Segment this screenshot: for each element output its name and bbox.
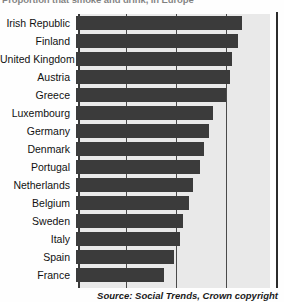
bar-germany bbox=[76, 124, 209, 138]
bar-united-kingdom bbox=[76, 52, 232, 66]
bar-track bbox=[74, 158, 264, 176]
table-row: United Kingdom bbox=[0, 50, 284, 68]
bar-italy bbox=[76, 232, 180, 246]
bar-track bbox=[74, 32, 264, 50]
table-row: Italy bbox=[0, 230, 284, 248]
table-row: Sweden bbox=[0, 212, 284, 230]
bar-track bbox=[74, 248, 264, 266]
source-note: Source: Social Trends, Crown copyright bbox=[0, 290, 278, 301]
category-label-portugal: Portugal bbox=[0, 158, 74, 176]
category-label-irish-republic: Irish Republic bbox=[0, 14, 74, 32]
table-row: Finland bbox=[0, 32, 284, 50]
bar-track bbox=[74, 176, 264, 194]
bar-sweden bbox=[76, 214, 183, 228]
category-label-luxembourg: Luxembourg bbox=[0, 104, 74, 122]
bar-france bbox=[76, 268, 164, 282]
bar-track bbox=[74, 140, 264, 158]
category-label-france: France bbox=[0, 266, 74, 284]
table-row: Denmark bbox=[0, 140, 284, 158]
category-label-spain: Spain bbox=[0, 248, 74, 266]
bar-austria bbox=[76, 70, 230, 84]
category-label-greece: Greece bbox=[0, 86, 74, 104]
bar-finland bbox=[76, 34, 238, 48]
table-row: Belgium bbox=[0, 194, 284, 212]
bar-luxembourg bbox=[76, 106, 213, 120]
bar-track bbox=[74, 194, 264, 212]
bar-irish-republic bbox=[76, 16, 242, 30]
table-row: Austria bbox=[0, 68, 284, 86]
bar-track bbox=[74, 212, 264, 230]
bar-netherlands bbox=[76, 178, 193, 192]
category-label-sweden: Sweden bbox=[0, 212, 74, 230]
bar-belgium bbox=[76, 196, 189, 210]
category-label-italy: Italy bbox=[0, 230, 74, 248]
bar-track bbox=[74, 68, 264, 86]
category-label-united-kingdom: United Kingdom bbox=[0, 50, 74, 68]
table-row: Greece bbox=[0, 86, 284, 104]
bar-track bbox=[74, 14, 264, 32]
bar-track bbox=[74, 230, 264, 248]
bar-track bbox=[74, 122, 264, 140]
table-row: Luxembourg bbox=[0, 104, 284, 122]
bar-rows: Irish Republic Finland United Kingdom Au… bbox=[0, 0, 284, 302]
bar-track bbox=[74, 104, 264, 122]
bar-greece bbox=[76, 88, 226, 102]
bar-track bbox=[74, 86, 264, 104]
category-label-finland: Finland bbox=[0, 32, 74, 50]
bar-spain bbox=[76, 250, 174, 264]
category-label-austria: Austria bbox=[0, 68, 74, 86]
category-label-belgium: Belgium bbox=[0, 194, 74, 212]
bar-portugal bbox=[76, 160, 200, 174]
table-row: Irish Republic bbox=[0, 14, 284, 32]
category-label-netherlands: Netherlands bbox=[0, 176, 74, 194]
bar-denmark bbox=[76, 142, 204, 156]
table-row: Netherlands bbox=[0, 176, 284, 194]
category-label-germany: Germany bbox=[0, 122, 74, 140]
category-label-denmark: Denmark bbox=[0, 140, 74, 158]
table-row: Portugal bbox=[0, 158, 284, 176]
bar-chart: Proportion that smoke and drink, in Euro… bbox=[0, 0, 284, 302]
bar-track bbox=[74, 266, 264, 284]
bar-track bbox=[74, 50, 264, 68]
table-row: Germany bbox=[0, 122, 284, 140]
table-row: Spain bbox=[0, 248, 284, 266]
table-row: France bbox=[0, 266, 284, 284]
